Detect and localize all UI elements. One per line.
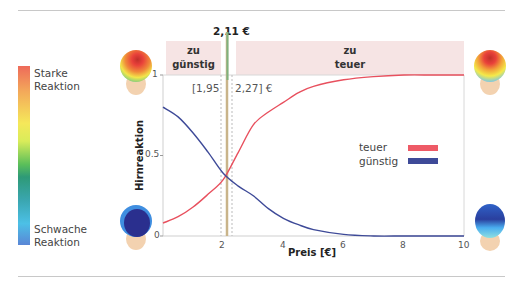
ytick-0: 0 <box>154 230 160 240</box>
legend-guenstig-swatch <box>408 158 438 164</box>
price-reaction-chart <box>0 0 526 282</box>
legend-teuer-swatch <box>408 145 438 151</box>
guenstig-curve <box>163 107 464 236</box>
ytick-1: 1 <box>152 69 158 79</box>
legend-teuer-label: teuer <box>359 141 387 153</box>
xtick-10: 10 <box>458 240 469 250</box>
xtick-8: 8 <box>400 240 406 250</box>
y-axis-title: Hirnreaktion <box>134 120 145 191</box>
interval-lower-label: [1,95 <box>192 82 219 94</box>
xtick-6: 6 <box>340 240 346 250</box>
xtick-4: 4 <box>280 240 286 250</box>
xtick-2: 2 <box>219 240 225 250</box>
ytick-0-5: 0.5 <box>145 149 159 159</box>
legend-guenstig-label: günstig <box>359 155 398 167</box>
interval-upper-label: 2,27] € <box>235 82 273 94</box>
x-axis-title: Preis [€] <box>288 247 336 258</box>
